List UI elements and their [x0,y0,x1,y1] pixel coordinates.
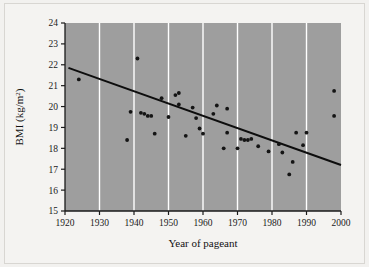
data-point [243,138,247,142]
y-axis-title: BMI (kg/m2) [13,88,26,145]
data-point [280,151,284,155]
y-tick-label-22: 22 [49,60,59,70]
data-point [215,104,219,108]
data-point [277,142,281,146]
data-point [211,112,215,116]
data-point [146,114,150,118]
data-point [267,150,271,154]
data-point [167,115,171,119]
data-point [291,160,295,164]
data-point [142,112,146,116]
data-point [184,134,188,138]
figure-container: 1516171819202122232419201930194019501960… [0,0,369,267]
data-point [305,131,309,135]
data-point [139,111,143,115]
data-point [191,106,195,110]
data-point [225,107,229,111]
data-point [198,127,202,131]
data-point [332,114,336,118]
data-point [160,96,164,100]
x-tick-label-1930: 1930 [90,218,109,228]
data-point [256,144,260,148]
y-tick-label-21: 21 [49,81,59,91]
data-point [174,93,178,97]
x-tick-label-1940: 1940 [125,218,144,228]
y-tick-label-20: 20 [49,102,59,112]
data-point [225,131,229,135]
data-point [136,57,140,61]
y-tick-label-15: 15 [49,206,59,216]
x-tick-label-1920: 1920 [56,218,75,228]
figure-panel: 1516171819202122232419201930194019501960… [4,3,365,264]
y-tick-label-23: 23 [49,39,59,49]
y-axis-title-group: BMI (kg/m2) [13,88,26,145]
y-tick-label-24: 24 [49,18,59,28]
data-point [194,116,198,120]
data-point [125,138,129,142]
data-point [301,143,305,147]
x-tick-label-1990: 1990 [297,218,316,228]
y-tick-label-16: 16 [49,186,59,196]
data-point [249,137,253,141]
x-tick-label-1950: 1950 [159,218,178,228]
x-tick-label-1970: 1970 [228,218,247,228]
x-tick-label-1980: 1980 [263,218,282,228]
y-tick-label-19: 19 [49,123,59,133]
data-point [177,91,181,95]
y-tick-label-17: 17 [49,165,59,175]
data-point [77,78,81,82]
data-point [332,89,336,93]
data-point [287,173,291,177]
data-point [246,138,250,142]
x-tick-label-2000: 2000 [332,218,351,228]
data-point [177,103,181,107]
data-point [149,114,153,118]
data-point [236,146,240,150]
data-point [294,131,298,135]
x-axis-title: Year of pageant [168,237,237,249]
data-point [153,132,157,136]
scatter-plot: 1516171819202122232419201930194019501960… [5,4,364,263]
data-point [201,132,205,136]
data-point [129,110,133,114]
y-tick-label-18: 18 [49,144,59,154]
data-point [222,146,226,150]
data-point [239,137,243,141]
x-tick-label-1960: 1960 [194,218,213,228]
